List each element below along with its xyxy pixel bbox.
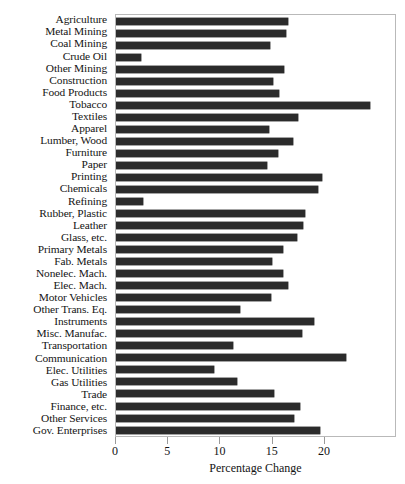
bar-row [116,171,395,183]
bar-row [116,232,395,244]
bar-row [116,400,395,412]
bar-row [116,412,395,424]
bar [116,282,288,289]
bar [116,330,302,337]
bar [116,354,346,361]
bar [116,114,298,121]
bar [116,366,214,373]
category-label: Misc. Manufac. [0,328,110,340]
bar-row [116,388,395,400]
bar [116,30,286,37]
bar [116,306,240,313]
bar-row [116,111,395,123]
bar-row [116,376,395,388]
bar [116,210,305,217]
category-label: Glass, etc. [0,231,110,243]
bar [116,90,279,97]
category-label: Trade [0,388,110,400]
category-label: Gov. Enterprises [0,425,110,437]
category-label: Gas Utilities [0,376,110,388]
bar [116,198,143,205]
x-axis-tick [272,437,273,444]
bar [116,234,297,241]
bar [116,174,322,181]
plot-area [115,14,396,437]
category-label: Refining [0,195,110,207]
bar [116,150,278,157]
bar-row [116,268,395,280]
x-axis-tick-label: 20 [318,444,330,458]
x-axis-tick [115,437,116,444]
bar-row [116,63,395,75]
category-label: Other Trans. Eq. [0,304,110,316]
bar-series [116,15,395,436]
bar [116,258,272,265]
bar-row [116,304,395,316]
category-label: Other Services [0,413,110,425]
bar [116,342,233,349]
bar-row [116,75,395,87]
bar [116,66,284,73]
x-axis-tick-label: 0 [112,444,118,458]
bar-row [116,244,395,256]
bar [116,378,237,385]
bar-row [116,15,395,27]
x-axis-tick [167,437,168,444]
category-label: Fab. Metals [0,256,110,268]
x-axis-tick-label: 15 [266,444,278,458]
bar-row [116,159,395,171]
category-label: Chemicals [0,183,110,195]
category-label: Construction [0,74,110,86]
category-label: Textiles [0,111,110,123]
bar [116,78,273,85]
category-label: Motor Vehicles [0,292,110,304]
category-label: Furniture [0,147,110,159]
bar-row [116,147,395,159]
bar-row [116,340,395,352]
x-axis-title: Percentage Change [115,461,396,476]
bar-row [116,364,395,376]
category-label: Paper [0,159,110,171]
bar-row [116,352,395,364]
category-label: Leather [0,219,110,231]
x-axis-tick [324,437,325,444]
bar-row [116,220,395,232]
bar [116,102,370,109]
category-label: Food Products [0,86,110,98]
bar [116,294,271,301]
category-label: Elec. Mach. [0,280,110,292]
bar-row [116,292,395,304]
bar-row [116,135,395,147]
category-label: Apparel [0,123,110,135]
bar-row [116,208,395,220]
bar [116,186,318,193]
bar [116,222,303,229]
bar [116,246,283,253]
bar [116,415,294,422]
bar-row [116,183,395,195]
bar [116,270,283,277]
bar-row [116,424,395,436]
bar-row [116,123,395,135]
category-label: Elec. Utilities [0,364,110,376]
category-label: Rubber, Plastic [0,207,110,219]
bar-row [116,51,395,63]
x-axis-tick-label: 5 [164,444,170,458]
category-axis-labels: AgricultureMetal MiningCoal MiningCrude … [0,14,110,437]
x-axis-tick-label: 10 [213,444,225,458]
category-label: Other Mining [0,62,110,74]
category-label: Metal Mining [0,26,110,38]
category-label: Finance, etc. [0,401,110,413]
bar [116,42,270,49]
category-label: Agriculture [0,14,110,26]
bar-row [116,280,395,292]
bar-row [116,87,395,99]
category-label: Lumber, Wood [0,135,110,147]
category-label: Coal Mining [0,38,110,50]
category-label: Nonelec. Mach. [0,268,110,280]
bar [116,403,300,410]
bar-row [116,256,395,268]
bar-chart: AgricultureMetal MiningCoal MiningCrude … [0,0,405,484]
bar [116,18,288,25]
bar-row [116,328,395,340]
